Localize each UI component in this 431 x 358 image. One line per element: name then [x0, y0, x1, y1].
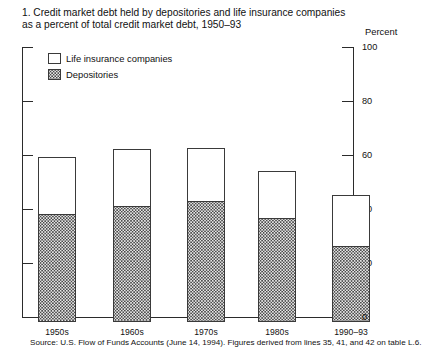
tick-left-80 — [22, 101, 33, 102]
legend-item-life-insurance: Life insurance companies — [48, 50, 172, 66]
tick-left-40 — [22, 209, 33, 210]
legend-item-depositories: Depositories — [48, 66, 172, 82]
x-tick-label: 1960s — [113, 327, 151, 337]
bar-group: 1990–93 — [332, 45, 370, 322]
legend-label: Life insurance companies — [66, 53, 172, 64]
legend-label: Depositories — [66, 69, 118, 80]
bar-depositories — [258, 218, 296, 322]
bar-depositories — [187, 201, 225, 323]
bar-group: 1950s — [38, 45, 76, 322]
tick-left-20 — [22, 263, 33, 264]
y-axis-unit-label: Percent — [365, 26, 397, 37]
bar-group: 1960s — [113, 45, 151, 322]
y-axis-left-line — [22, 47, 23, 317]
x-tick-label: 1970s — [187, 327, 225, 337]
plot-area: 100 80 60 40 20 1950s 1960s 1970s 1980s … — [22, 40, 379, 322]
bar-depositories — [38, 214, 76, 322]
legend: Life insurance companies Depositories — [48, 50, 172, 82]
x-tick-label: 1980s — [258, 327, 296, 337]
x-tick-label: 1950s — [38, 327, 76, 337]
bar-depositories — [332, 246, 370, 322]
bar-group: 1980s — [258, 45, 296, 322]
tick-left-100 — [22, 47, 33, 48]
x-tick-label: 1990–93 — [332, 327, 370, 337]
legend-swatch-depositories-icon — [48, 69, 61, 80]
chart-title-line-2: as a percent of total credit market debt… — [22, 19, 362, 31]
bar-group: 1970s — [187, 45, 225, 322]
chart-title: 1. Credit market debt held by depositori… — [22, 7, 362, 32]
bar-depositories — [113, 206, 151, 322]
chart-title-line-1: 1. Credit market debt held by depositori… — [22, 7, 362, 19]
legend-swatch-life-insurance-icon — [48, 53, 61, 64]
y-tick-label-0: 0 — [362, 312, 367, 322]
source-note: Source: U.S. Flow of Funds Accounts (Jun… — [30, 338, 421, 347]
tick-left-60 — [22, 155, 33, 156]
